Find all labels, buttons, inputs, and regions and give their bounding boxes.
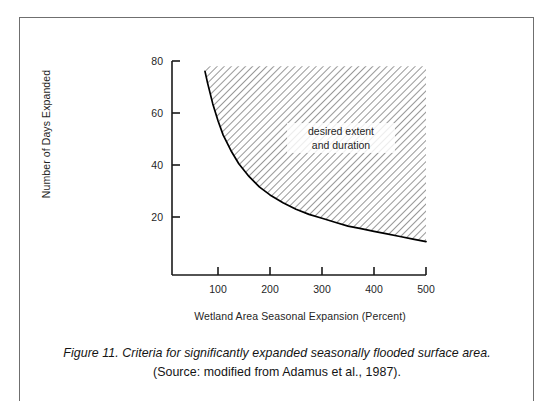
x-axis-tick-labels: 100200300400500 <box>209 283 435 295</box>
caption-line-1: Figure 11. Criteria for significantly ex… <box>40 344 514 363</box>
y-tick-label: 60 <box>151 107 163 119</box>
y-tick-label: 40 <box>151 159 163 171</box>
y-tick-label: 20 <box>151 211 163 223</box>
annotation-line-1: desired extent <box>289 124 393 138</box>
figure-page: 100200300400500 20406080 Number of Days … <box>0 0 559 401</box>
x-tick-label: 100 <box>209 283 227 295</box>
desired-extent-annotation: desired extent and duration <box>287 123 395 153</box>
x-axis-title: Wetland Area Seasonal Expansion (Percent… <box>172 310 428 322</box>
desired-extent-region <box>205 66 426 242</box>
x-tick-label: 400 <box>365 283 383 295</box>
x-tick-label: 300 <box>313 283 331 295</box>
annotation-line-2: and duration <box>289 138 393 152</box>
y-tick-label: 80 <box>151 55 163 67</box>
chart-plot-area: 100200300400500 20406080 Number of Days … <box>0 0 559 330</box>
caption-line-2: (Source: modified from Adamus et al., 19… <box>40 363 514 382</box>
chart-svg: 100200300400500 20406080 <box>0 0 559 330</box>
figure-caption: Figure 11. Criteria for significantly ex… <box>40 344 514 382</box>
x-tick-label: 200 <box>261 283 279 295</box>
y-axis-tick-labels: 20406080 <box>151 55 163 223</box>
y-axis-title: Number of Days Expanded <box>40 44 52 224</box>
x-tick-label: 500 <box>417 283 435 295</box>
